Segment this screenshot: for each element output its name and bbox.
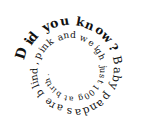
spiral-character: t xyxy=(63,93,68,101)
spiral-text-graphic: Did you know? Baby pandas are blind, pin… xyxy=(0,0,142,132)
spiral-character: u xyxy=(59,15,70,29)
spiral-character: ? xyxy=(106,42,120,54)
spiral-character: n xyxy=(63,31,70,41)
spiral-character: a xyxy=(74,106,82,117)
spiral-character: d xyxy=(70,31,76,40)
spiral-character: B xyxy=(110,55,123,66)
spiral-character: D xyxy=(14,46,30,61)
spiral-character: s xyxy=(67,106,73,117)
spiral-character: u xyxy=(99,67,107,72)
spiral-character: a xyxy=(68,94,73,102)
spiral-character: a xyxy=(111,67,122,74)
spiral-character: d xyxy=(29,67,39,73)
